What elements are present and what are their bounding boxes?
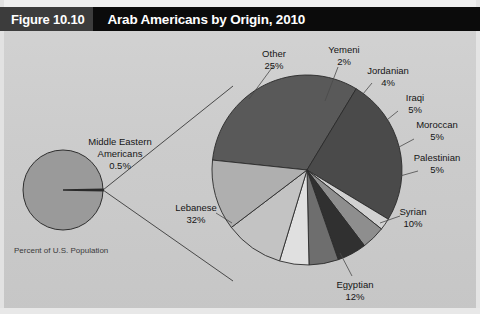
pie-chart-svg: Middle Eastern Americans 0.5% Percent of… [0,31,480,308]
slice-value-palestinian: 5% [430,164,444,175]
slice-label-iraqi: Iraqi [406,92,424,103]
inset-pie-sliver [63,189,103,191]
slice-value-other: 25% [264,60,284,71]
figure-title-bar: Figure 10.10 Arab Americans by Origin, 2… [0,7,480,31]
slice-value-syrian: 10% [403,218,423,229]
inset-label-line2: Americans [98,148,143,159]
figure-number-box: Figure 10.10 [0,7,93,31]
chart-plot-area: Middle Eastern Americans 0.5% Percent of… [0,31,480,308]
chart-footnote: Percent of U.S. Population [14,246,108,255]
panel-edge-bottom [0,308,480,314]
slice-label-other: Other [262,48,286,59]
inset-pie-group [23,150,103,230]
slice-label-moroccan: Moroccan [416,119,458,130]
slice-label-jordanian: Jordanian [367,65,409,76]
figure-title-text: Arab Americans by Origin, 2010 [107,12,305,27]
slice-label-palestinian: Palestinian [414,152,460,163]
figure-root: Figure 10.10 Arab Americans by Origin, 2… [0,0,480,314]
slice-value-iraqi: 5% [408,104,422,115]
slice-value-yemeni: 2% [337,56,351,67]
slice-label-yemeni: Yemeni [328,44,359,55]
slice-value-lebanese: 32% [186,214,206,225]
figure-number-label: Figure 10.10 [11,12,84,27]
inset-label-line1: Middle Eastern [88,136,151,147]
slice-value-moroccan: 5% [430,131,444,142]
slice-label-lebanese: Lebanese [175,202,217,213]
slice-label-egyptian: Egyptian [337,279,374,290]
slice-value-egyptian: 12% [345,291,365,302]
inset-label-value: 0.5% [109,160,131,171]
main-pie-group [212,75,402,265]
slice-label-syrian: Syrian [400,206,427,217]
panel-edge-top [0,0,480,7]
figure-title-box: Arab Americans by Origin, 2010 [93,7,480,31]
slice-value-jordanian: 4% [381,77,395,88]
